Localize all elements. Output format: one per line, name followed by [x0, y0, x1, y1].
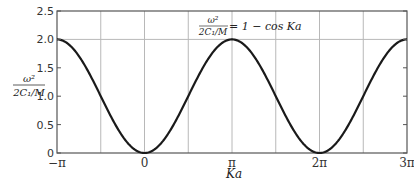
x-tick-label: 3π: [399, 156, 414, 170]
y-tick-label: 2.5: [37, 5, 55, 18]
equation-rhs: = 1 − cos Ka: [229, 20, 302, 33]
x-tick-label: −π: [48, 156, 66, 170]
y-axis-label: ω² 2C₁/M: [12, 73, 45, 98]
x-tick-label: 2π: [312, 156, 328, 170]
dispersion-chart: 00.51.01.52.02.5 −π0π2π3π ω² 2C₁/M ω² 2C…: [0, 0, 414, 186]
equation-denominator: 2C₁/M: [198, 27, 228, 37]
equation-numerator: ω²: [208, 15, 219, 25]
y-tick-label: 0.5: [37, 119, 55, 132]
y-tick-label: 1.5: [37, 62, 55, 75]
y-label-numerator: ω²: [23, 73, 35, 84]
y-label-denominator: 2C₁/M: [12, 87, 45, 98]
equation-annotation: ω² 2C₁/M = 1 − cos Ka: [198, 15, 302, 37]
x-tick-label: 0: [141, 156, 149, 170]
x-axis-label: Ka: [225, 167, 242, 181]
y-tick-label: 2.0: [37, 33, 55, 46]
